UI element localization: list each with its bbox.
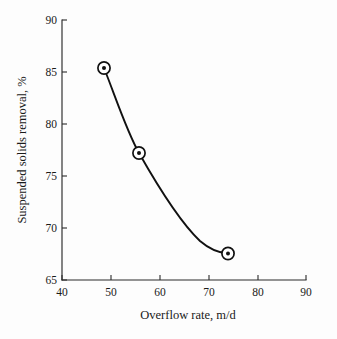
y-tick-label-85: 85	[46, 66, 58, 78]
x-axis-title: Overflow rate, m/d	[140, 308, 236, 322]
marker-dot-3	[226, 252, 230, 256]
y-tick-label-65: 65	[46, 274, 58, 286]
y-tick-label-75: 75	[46, 170, 58, 182]
y-tick-label-90: 90	[46, 14, 58, 26]
data-point-marker-1[interactable]	[98, 62, 110, 74]
x-tick-label-80: 80	[252, 286, 264, 298]
y-tick-label-70: 70	[46, 222, 58, 234]
x-tick-label-90: 90	[300, 286, 312, 298]
data-series-curve	[104, 68, 228, 254]
y-axis-title: Suspended solids removal, %	[15, 76, 29, 223]
x-tick-label-70: 70	[203, 286, 215, 298]
x-axis-ticks	[62, 275, 306, 280]
marker-dot-2	[137, 151, 141, 155]
data-point-marker-3[interactable]	[222, 247, 234, 259]
data-point-marker-2[interactable]	[133, 147, 145, 159]
caption-fragment	[0, 327, 337, 339]
x-tick-label-60: 60	[154, 286, 166, 298]
x-axis-tick-labels: 40 50 60 70 80 90	[56, 286, 312, 298]
marker-dot-1	[102, 66, 106, 70]
chart-canvas: 65 70 75 80 85 90 40 50 60 70 80 90 Over…	[0, 0, 337, 339]
x-tick-label-50: 50	[105, 286, 117, 298]
y-axis-ticks	[62, 20, 67, 280]
y-axis-tick-labels: 65 70 75 80 85 90	[46, 14, 58, 286]
y-tick-label-80: 80	[46, 118, 58, 130]
x-tick-label-40: 40	[56, 286, 68, 298]
figure-container: 65 70 75 80 85 90 40 50 60 70 80 90 Over…	[0, 0, 337, 339]
